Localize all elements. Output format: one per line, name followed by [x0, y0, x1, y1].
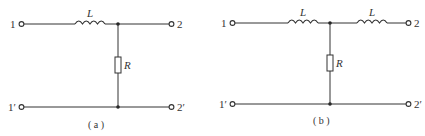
label-b-2: 2: [414, 17, 420, 29]
terminal-a-1prime: [19, 105, 24, 110]
terminal-b-1prime: [230, 102, 235, 107]
terminal-a-2prime: [169, 105, 174, 110]
label-b-1prime: 1′: [219, 98, 227, 110]
terminal-a-1: [19, 22, 24, 27]
resistor-a-R: [115, 57, 121, 73]
circuit-a: 1 2 1′ 2′ L R ( a ): [8, 7, 185, 131]
label-b-L2: L: [368, 6, 375, 18]
label-a-2prime: 2′: [177, 101, 185, 113]
inductor-b-L1: [288, 20, 318, 23]
label-a-1prime: 1′: [8, 101, 16, 113]
caption-b: ( b ): [313, 115, 330, 127]
inductor-a-L: [75, 21, 105, 24]
label-a-R: R: [123, 59, 131, 71]
label-b-L1: L: [299, 6, 306, 18]
resistor-b-R: [327, 55, 333, 71]
label-b-1: 1: [221, 17, 227, 29]
label-a-L: L: [86, 7, 93, 19]
terminal-a-2: [169, 22, 174, 27]
circuit-diagrams: 1 2 1′ 2′ L R ( a ) 1 2 1′ 2′ L L R: [0, 0, 425, 136]
caption-a: ( a ): [88, 119, 104, 131]
terminal-b-1: [230, 21, 235, 26]
terminal-b-2: [406, 21, 411, 26]
label-b-R: R: [335, 57, 343, 69]
inductor-b-L2: [357, 20, 387, 23]
label-b-2prime: 2′: [414, 98, 422, 110]
circuit-b: 1 2 1′ 2′ L L R ( b ): [219, 6, 422, 127]
terminal-b-2prime: [406, 102, 411, 107]
label-a-1: 1: [10, 18, 16, 30]
label-a-2: 2: [177, 18, 183, 30]
